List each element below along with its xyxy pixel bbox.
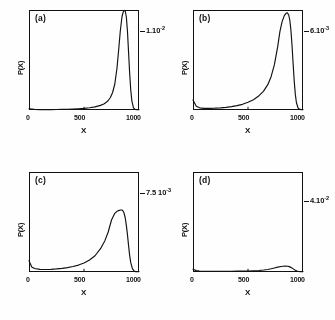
scale-mantissa-d: 4.10 (310, 196, 324, 205)
x-axis-label-a: X (81, 126, 86, 135)
curve-path-b (193, 13, 303, 110)
xtick-1000-a: 1000 (126, 114, 141, 121)
scale-mantissa-a: 1.10 (146, 26, 160, 35)
curve-b (193, 10, 303, 110)
curve-path-c (29, 210, 139, 272)
y-axis-label-d: P(X) (180, 223, 189, 237)
panel-label-c: (c) (35, 175, 46, 185)
curve-path-a (29, 10, 139, 109)
figure-multi-panel-distributions: (a) P(X) 1.10-2 0 500 1000 X (b) P(X) 6.… (0, 0, 335, 320)
xtick-0-c: 0 (26, 276, 30, 283)
y-axis-label-b: P(X) (180, 61, 189, 75)
xtick-1000-d: 1000 (290, 276, 305, 283)
panel-label-b: (b) (199, 13, 210, 23)
xtick-0-a: 0 (26, 114, 30, 121)
panel-label-a: (a) (35, 13, 46, 23)
scale-tick-b (304, 31, 309, 32)
scale-tick-a (140, 31, 145, 32)
panel-a: (a) P(X) 1.10-2 0 500 1000 X (0, 0, 167, 158)
scale-tick-d (304, 201, 309, 202)
xtick-500-b: 500 (238, 114, 249, 121)
scale-exponent-a: -2 (160, 25, 165, 31)
panel-b: (b) P(X) 6.10-3 0 500 1000 X (167, 0, 335, 158)
x-axis-label-c: X (81, 288, 86, 297)
x-axis-label-b: X (245, 126, 250, 135)
curve-d (193, 172, 303, 272)
curve-a (29, 10, 139, 110)
scale-exponent-d: -2 (324, 195, 329, 201)
curve-c (29, 172, 139, 272)
xtick-0-d: 0 (190, 276, 194, 283)
xtick-1000-b: 1000 (290, 114, 305, 121)
x-axis-label-d: X (245, 288, 250, 297)
panel-d: (d) P(X) 4.10-2 0 500 1000 X (167, 158, 335, 320)
scale-mantissa-b: 6.10 (310, 26, 324, 35)
panel-c: (c) P(X) 7.5 10-3 0 500 1000 X (0, 158, 167, 320)
xtick-1000-c: 1000 (126, 276, 141, 283)
xtick-0-b: 0 (190, 114, 194, 121)
xtick-500-c: 500 (74, 276, 85, 283)
scale-label-a: 1.10-2 (146, 26, 165, 35)
scale-mantissa-c: 7.5 10 (146, 188, 166, 197)
scale-label-b: 6.10-3 (310, 26, 329, 35)
scale-exponent-b: -3 (324, 25, 329, 31)
xtick-500-d: 500 (238, 276, 249, 283)
panel-label-d: (d) (199, 175, 210, 185)
xtick-500-a: 500 (74, 114, 85, 121)
y-axis-label-a: P(X) (16, 61, 25, 75)
scale-tick-c (140, 193, 145, 194)
y-axis-label-c: P(X) (16, 223, 25, 237)
scale-label-d: 4.10-2 (310, 196, 329, 205)
